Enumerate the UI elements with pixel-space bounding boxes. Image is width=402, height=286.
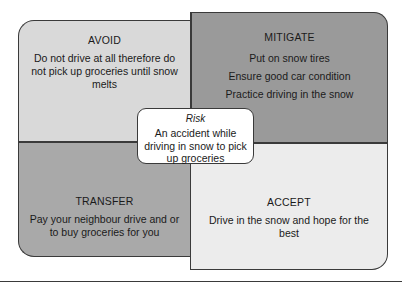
risk-title: Risk <box>186 113 205 124</box>
bottom-divider <box>0 281 402 282</box>
accept-text: Drive in the snow and hope for the best <box>191 214 387 240</box>
mitigate-line-2: Ensure good car condition <box>219 67 361 85</box>
mitigate-line-3: Practice driving in the snow <box>216 85 364 103</box>
risk-center-box: Risk An accident while driving in snow t… <box>137 108 254 164</box>
avoid-text: Do not drive at all therefore do not pic… <box>19 52 190 91</box>
accept-title: ACCEPT <box>267 196 311 208</box>
transfer-title: TRANSFER <box>75 195 133 207</box>
transfer-text: Pay your neighbour drive and or to buy g… <box>19 213 190 239</box>
mitigate-line-1: Put on snow tires <box>239 49 340 67</box>
mitigate-title: MITIGATE <box>264 31 314 43</box>
risk-text: An accident while driving in snow to pic… <box>138 127 253 165</box>
avoid-title: AVOID <box>88 34 121 46</box>
